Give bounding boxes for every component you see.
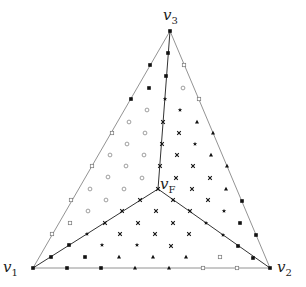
cross-marker bbox=[190, 187, 194, 191]
triangle-marker bbox=[117, 255, 121, 259]
cross-marker bbox=[208, 176, 212, 180]
triangle-canvas bbox=[0, 0, 306, 287]
open-circle-marker bbox=[143, 131, 147, 135]
filled-square-marker bbox=[129, 97, 133, 101]
vertex-label-v1: v1 bbox=[3, 260, 18, 278]
star-marker bbox=[100, 243, 104, 247]
cross-marker bbox=[118, 232, 122, 236]
cross-marker bbox=[136, 221, 140, 225]
filled-square-marker bbox=[164, 74, 168, 78]
filled-square-marker bbox=[148, 63, 152, 67]
open-circle-marker bbox=[108, 153, 112, 157]
open-circle-marker bbox=[125, 142, 129, 146]
open-circle-marker bbox=[124, 164, 128, 168]
star-marker bbox=[193, 142, 197, 146]
filled-square-marker bbox=[240, 199, 244, 203]
filled-square-marker bbox=[236, 244, 240, 248]
open-square-marker bbox=[218, 255, 221, 258]
open-square-marker bbox=[69, 198, 72, 201]
triangle-marker bbox=[151, 255, 155, 259]
open-circle-marker bbox=[127, 120, 131, 124]
open-square-marker bbox=[50, 232, 53, 235]
filled-square-marker bbox=[147, 86, 151, 90]
open-square-marker bbox=[90, 164, 93, 167]
lattice-markers bbox=[31, 29, 272, 270]
triangle-marker bbox=[209, 153, 213, 157]
open-square-marker bbox=[182, 63, 185, 66]
cross-marker bbox=[187, 232, 191, 236]
open-circle-marker bbox=[142, 153, 146, 157]
filled-square-marker bbox=[67, 243, 71, 247]
open-circle-marker bbox=[88, 187, 92, 191]
open-circle-marker bbox=[122, 187, 126, 191]
filled-square-marker bbox=[168, 29, 172, 33]
cross-marker bbox=[153, 232, 157, 236]
open-circle-marker bbox=[86, 209, 90, 213]
cross-marker bbox=[171, 221, 175, 225]
open-circle-marker bbox=[181, 86, 185, 90]
triangle-marker bbox=[184, 255, 188, 259]
triangle-marker bbox=[225, 164, 229, 168]
filled-square-marker bbox=[99, 266, 103, 270]
filled-square-marker bbox=[254, 233, 258, 237]
star-marker bbox=[135, 243, 139, 247]
triangle-marker bbox=[211, 131, 215, 135]
triangle-marker bbox=[224, 187, 228, 191]
open-square-marker bbox=[68, 221, 71, 224]
open-circle-marker bbox=[104, 198, 108, 202]
open-circle-marker bbox=[140, 176, 144, 180]
filled-square-marker bbox=[268, 266, 272, 270]
open-square-marker bbox=[201, 266, 204, 269]
filled-square-marker bbox=[251, 256, 255, 260]
filled-square-marker bbox=[31, 266, 35, 270]
cross-marker bbox=[154, 209, 158, 213]
filled-square-marker bbox=[49, 255, 53, 259]
cross-marker bbox=[206, 198, 210, 202]
open-circle-marker bbox=[106, 175, 110, 179]
filled-square-marker bbox=[238, 221, 242, 225]
vertex-label-v3: v3 bbox=[163, 8, 178, 26]
open-circle-marker bbox=[145, 108, 149, 112]
vertex-label-v2: v2 bbox=[277, 260, 292, 278]
vertex-label-vF: vF bbox=[160, 177, 175, 195]
cross-marker bbox=[177, 131, 181, 135]
open-square-marker bbox=[110, 131, 113, 134]
star-marker bbox=[222, 209, 226, 213]
simplex-diagram: v1 v2 v3 vF bbox=[0, 0, 306, 287]
filled-square-marker bbox=[166, 51, 170, 55]
filled-square-marker bbox=[83, 255, 87, 259]
triangle-marker bbox=[195, 120, 199, 124]
open-square-marker bbox=[197, 97, 200, 100]
filled-square-marker bbox=[65, 266, 69, 270]
cross-marker bbox=[175, 153, 179, 157]
open-square-marker bbox=[235, 266, 238, 269]
cross-marker bbox=[169, 244, 173, 248]
star-marker bbox=[178, 108, 182, 112]
cross-marker bbox=[191, 164, 195, 168]
